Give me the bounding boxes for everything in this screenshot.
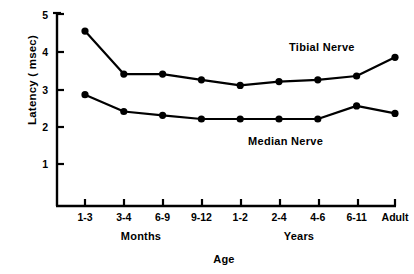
data-point — [120, 71, 127, 78]
x-tick-label: 6-9 — [155, 211, 170, 223]
x-tick-label: 2-4 — [271, 211, 286, 223]
series-line-tibial-nerve — [85, 31, 395, 85]
data-point — [314, 115, 321, 122]
data-point — [120, 108, 127, 115]
data-point — [81, 28, 88, 35]
data-point — [275, 115, 282, 122]
data-point — [314, 76, 321, 83]
data-point — [353, 102, 360, 109]
chart-figure: Latency ( msec) 12345 1-33-46-99-121-22-… — [0, 0, 414, 274]
data-point — [159, 112, 166, 119]
y-tick-label: 1 — [42, 158, 48, 170]
series-label-tibial: Tibial Nerve — [289, 41, 355, 53]
x-tick-label: 3-4 — [116, 211, 131, 223]
series-line-median-nerve — [85, 95, 395, 119]
x-group-label-months: Months — [121, 230, 161, 242]
y-tick-label: 3 — [42, 84, 48, 96]
y-tick-label: 2 — [42, 121, 48, 133]
line-chart-plot: 12345 1-33-46-99-121-22-44-66-11Adult Ti… — [0, 0, 414, 274]
data-point — [198, 115, 205, 122]
data-point — [159, 71, 166, 78]
x-tick-label: 1-3 — [77, 211, 92, 223]
data-point — [275, 78, 282, 85]
data-point — [391, 54, 398, 61]
x-tick-label-layer: 1-33-46-99-121-22-44-66-11Adult — [77, 211, 409, 223]
series-label-median: Median Nerve — [248, 135, 323, 147]
x-tick-label: 9-12 — [191, 211, 212, 223]
data-point — [391, 110, 398, 117]
x-group-label-years: Years — [284, 230, 314, 242]
y-tick-label-layer: 12345 — [42, 9, 48, 171]
x-axis-title: Age — [213, 253, 234, 265]
x-tick-label: 6-11 — [346, 211, 367, 223]
x-tick-label: Adult — [382, 211, 409, 223]
x-tick-label: 1-2 — [233, 211, 248, 223]
data-point — [198, 76, 205, 83]
data-point — [237, 82, 244, 89]
data-point — [81, 91, 88, 98]
y-tick-label: 4 — [42, 46, 48, 58]
y-tick-label: 5 — [42, 9, 48, 21]
data-point — [353, 72, 360, 79]
x-tick-label: 4-6 — [310, 211, 325, 223]
data-point — [237, 115, 244, 122]
